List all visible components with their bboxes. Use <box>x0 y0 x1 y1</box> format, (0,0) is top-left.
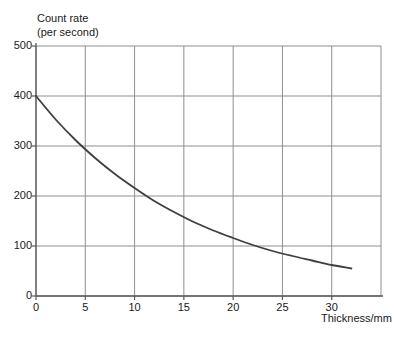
y-axis-title: Count rate (per second) <box>37 11 99 39</box>
x-tick-label: 10 <box>122 301 148 313</box>
y-tick-label: 200 <box>2 189 32 201</box>
x-tick-label: 20 <box>220 301 246 313</box>
x-tick-label: 0 <box>23 301 49 313</box>
y-tick-label: 500 <box>2 39 32 51</box>
y-axis-title-line2: (per second) <box>37 25 99 39</box>
x-axis-title: Thickness/mm <box>321 312 392 324</box>
x-tick-label: 15 <box>171 301 197 313</box>
y-tick-label: 300 <box>2 139 32 151</box>
y-tick-label: 400 <box>2 89 32 101</box>
y-tick-label: 0 <box>2 289 32 301</box>
plot-svg <box>0 0 394 337</box>
y-tick-label: 100 <box>2 239 32 251</box>
x-tick-label: 30 <box>319 301 345 313</box>
x-tick-label: 5 <box>72 301 98 313</box>
count-rate-thickness-chart: Count rate (per second) Thickness/mm 010… <box>0 0 394 337</box>
y-axis-title-line1: Count rate <box>37 11 99 25</box>
count-rate-curve <box>36 96 351 269</box>
x-tick-label: 25 <box>269 301 295 313</box>
